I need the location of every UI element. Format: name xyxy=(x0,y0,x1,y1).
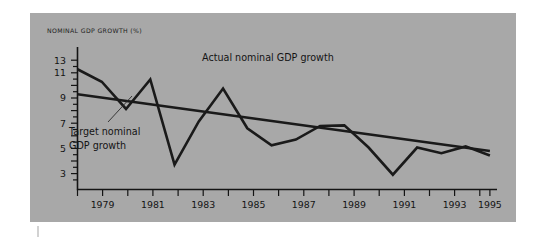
target-series-annotation-line2: GDP growth xyxy=(69,140,126,151)
actual-series-annotation: Actual nominal GDP growth xyxy=(202,52,334,63)
x-axis-ticks xyxy=(78,190,490,197)
y-tick-label-7: 7 xyxy=(60,118,66,129)
y-axis-ticks xyxy=(71,60,78,180)
screenshot-root: NOMINAL GDP GROWTH (%) xyxy=(0,0,544,242)
y-tick-label-5: 5 xyxy=(60,143,66,154)
y-tick-label-13: 13 xyxy=(54,55,66,66)
x-tick-label-1983: 1983 xyxy=(191,199,215,210)
x-tick-label-1991: 1991 xyxy=(392,199,416,210)
axis-lines xyxy=(78,47,498,190)
x-tick-label-1989: 1989 xyxy=(342,199,366,210)
x-tick-label-1981: 1981 xyxy=(141,199,165,210)
x-tick-label-1979: 1979 xyxy=(91,199,115,210)
page-margin-mark xyxy=(37,226,39,237)
x-tick-label-1987: 1987 xyxy=(292,199,316,210)
y-tick-label-11: 11 xyxy=(54,67,66,78)
x-tick-label-1995: 1995 xyxy=(478,199,502,210)
x-tick-label-1993: 1993 xyxy=(443,199,467,210)
y-axis-title: NOMINAL GDP GROWTH (%) xyxy=(47,27,142,34)
gdp-growth-line-chart: NOMINAL GDP GROWTH (%) xyxy=(30,13,516,222)
y-tick-label-3: 3 xyxy=(60,168,66,179)
y-axis-tick-labels: 13 11 9 7 5 3 xyxy=(54,55,66,179)
x-axis-tick-labels: 1979 1981 1983 1985 1987 1989 1991 1993 … xyxy=(91,199,502,210)
y-tick-label-9: 9 xyxy=(60,92,66,103)
target-series-annotation-line1: Target nominal xyxy=(68,126,140,137)
x-tick-label-1985: 1985 xyxy=(242,199,266,210)
chart-panel: NOMINAL GDP GROWTH (%) xyxy=(30,13,516,222)
